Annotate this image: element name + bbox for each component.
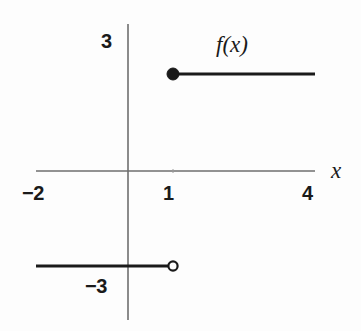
x-axis-tick-label-1: 1 xyxy=(163,183,174,203)
y-axis-tick-label-negative-3: −3 xyxy=(85,276,107,296)
x-axis-tick-label-negative-2: −2 xyxy=(22,183,44,203)
open-endpoint-marker xyxy=(168,261,177,270)
x-axis-tick-label-4: 4 xyxy=(302,183,313,203)
x-axis-name-label: x xyxy=(331,159,341,182)
function-name-label: f(x) xyxy=(216,33,248,56)
closed-endpoint-marker xyxy=(167,68,179,80)
y-axis-tick-label-3: 3 xyxy=(101,31,112,51)
function-graph-figure: 3 −3 −2 1 4 f(x) x xyxy=(0,0,361,331)
plot-canvas xyxy=(0,0,361,331)
